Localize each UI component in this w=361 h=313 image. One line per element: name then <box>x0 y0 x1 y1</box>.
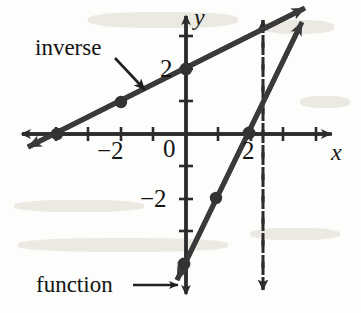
inverse-label: inverse <box>35 36 101 59</box>
x-tick-label-neg2: −2 <box>97 138 124 163</box>
inverse-pointer-arrow <box>115 58 145 90</box>
point-inverse-0-2 <box>180 63 193 76</box>
graph-figure: inverse function x y 0 −2 2 2 −2 <box>0 0 361 313</box>
point-function-0-neg4 <box>178 258 191 271</box>
y-axis-label: y <box>194 5 205 29</box>
x-axis-label: x <box>331 140 342 164</box>
y-tick-label-2: 2 <box>160 56 173 81</box>
function-label: function <box>36 273 113 296</box>
x-tick-label-2: 2 <box>242 138 255 163</box>
point-function-1-neg2 <box>210 192 222 204</box>
y-tick-label-neg2: −2 <box>140 186 167 211</box>
point-inverse-neg4-0 <box>51 128 63 140</box>
point-inverse-neg2-1 <box>115 96 127 108</box>
origin-label: 0 <box>163 136 176 161</box>
